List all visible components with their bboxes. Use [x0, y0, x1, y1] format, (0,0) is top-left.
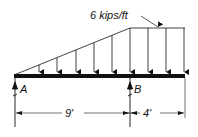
span-ab-label: 9'	[65, 107, 74, 119]
support-a	[13, 78, 18, 127]
support-a-label: A	[19, 83, 27, 95]
distributed-load	[14, 28, 185, 75]
support-b	[128, 78, 133, 127]
load-leader-line	[141, 16, 158, 27]
beam	[14, 74, 185, 78]
beam-diagram: 6 kips/ft A B 9' 4'	[0, 0, 198, 137]
overhang-label: 4'	[143, 107, 152, 119]
load-label: 6 kips/ft	[90, 9, 129, 21]
support-b-label: B	[134, 83, 141, 95]
